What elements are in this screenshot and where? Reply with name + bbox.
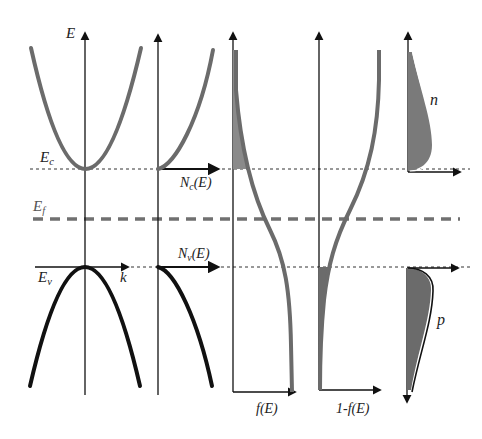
energy-axis-label: E [66, 26, 75, 41]
hole-concentration-label: p [437, 312, 445, 328]
ef-label: Ef [33, 199, 45, 217]
ec-label-main: E [40, 149, 49, 165]
electron-concentration-label: n [430, 92, 438, 108]
nv-label: Nv(E) [178, 247, 210, 263]
fe-label: f(E) [256, 402, 278, 416]
nv-label-tail: (E) [192, 246, 210, 261]
ev-label: Ev [38, 270, 52, 288]
nv-curve [158, 267, 212, 386]
ec-label-sub: c [49, 156, 54, 167]
fe-curve [236, 50, 292, 392]
nc-curve [158, 50, 213, 169]
nc-label-main: N [180, 175, 189, 190]
nc-label-tail: (E) [194, 175, 212, 190]
nc-label: Nc(E) [180, 176, 212, 192]
ef-label-main: E [33, 198, 42, 214]
ev-label-main: E [38, 269, 47, 285]
one-minus-fe-label: 1-f(E) [336, 402, 369, 416]
nv-label-main: N [178, 246, 187, 261]
band-diagram [0, 0, 482, 439]
k-axis-label: k [120, 270, 127, 285]
ev-label-sub: v [47, 276, 52, 287]
ef-label-sub: f [42, 205, 45, 216]
ec-label: Ec [40, 150, 54, 168]
